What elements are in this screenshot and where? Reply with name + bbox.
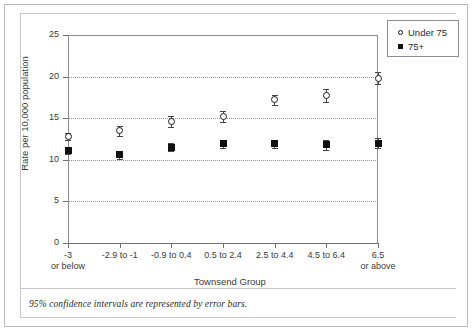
open-circle-icon xyxy=(394,30,406,35)
filled-square-marker xyxy=(116,151,123,158)
gridline xyxy=(68,201,378,202)
x-axis-title: Townsend Group xyxy=(140,276,320,287)
filled-square-marker xyxy=(168,144,175,151)
error-bar-cap xyxy=(168,151,174,152)
open-circle-marker xyxy=(168,118,175,125)
figure-container: Rate per 10,000 population 0510152025 -3… xyxy=(0,0,472,331)
filled-square-marker xyxy=(65,147,72,154)
error-bar-cap xyxy=(323,89,329,90)
x-axis-category-line: or below xyxy=(25,261,111,272)
x-axis-tick xyxy=(68,243,69,248)
x-axis-tick xyxy=(275,243,276,248)
error-bar-cap xyxy=(323,102,329,103)
x-axis-tick xyxy=(326,243,327,248)
error-bar-cap xyxy=(220,111,226,112)
gridline xyxy=(68,77,378,78)
x-axis-category-label: 6.5or above xyxy=(335,250,421,272)
y-axis-tick-label: 10 xyxy=(25,154,59,164)
figure-caption: 95% confidence intervals are represented… xyxy=(29,299,247,309)
error-bar-cap xyxy=(272,148,278,149)
gridline xyxy=(68,160,378,161)
x-axis-tick xyxy=(378,243,379,248)
open-circle-marker xyxy=(375,75,382,82)
error-bar-cap xyxy=(220,148,226,149)
open-circle-marker xyxy=(65,133,72,140)
y-axis-tick xyxy=(63,160,68,161)
legend-label: 75+ xyxy=(408,41,424,52)
error-bar-cap xyxy=(168,116,174,117)
error-bar-cap xyxy=(323,150,329,151)
caption-divider xyxy=(20,288,456,289)
filled-square-marker xyxy=(271,140,278,147)
y-axis-tick-label: 25 xyxy=(25,29,59,39)
x-axis-tick xyxy=(171,243,172,248)
chart-legend[interactable]: Under 75 75+ xyxy=(387,20,459,57)
x-axis-category-line: 6.5 xyxy=(335,250,421,261)
filled-square-marker xyxy=(323,141,330,148)
y-axis-tick xyxy=(63,77,68,78)
error-bar-cap xyxy=(272,105,278,106)
chart-canvas: Rate per 10,000 population 0510152025 -3… xyxy=(0,0,472,331)
x-axis-tick xyxy=(223,243,224,248)
y-axis-tick xyxy=(63,118,68,119)
legend-label: Under 75 xyxy=(408,27,447,38)
error-bar-cap xyxy=(375,84,381,85)
open-circle-marker xyxy=(220,113,227,120)
x-axis-tick xyxy=(120,243,121,248)
error-bar-cap xyxy=(375,72,381,73)
y-axis-tick xyxy=(63,201,68,202)
y-axis-tick xyxy=(63,35,68,36)
error-bar-cap xyxy=(168,127,174,128)
filled-square-icon xyxy=(394,44,406,49)
y-axis-tick-label: 15 xyxy=(25,112,59,122)
legend-item-75-plus[interactable]: 75+ xyxy=(394,40,424,53)
error-bar-cap xyxy=(220,122,226,123)
x-axis-category-line: or above xyxy=(335,261,421,272)
y-axis-tick-label: 5 xyxy=(25,195,59,205)
error-bar-cap xyxy=(117,159,123,160)
error-bar-cap xyxy=(117,136,123,137)
error-bar-cap xyxy=(375,148,381,149)
y-axis-tick-label: 0 xyxy=(25,237,59,247)
filled-square-marker xyxy=(220,140,227,147)
legend-item-under-75[interactable]: Under 75 xyxy=(394,26,447,39)
y-axis-tick-label: 20 xyxy=(25,71,59,81)
filled-square-marker xyxy=(375,140,382,147)
